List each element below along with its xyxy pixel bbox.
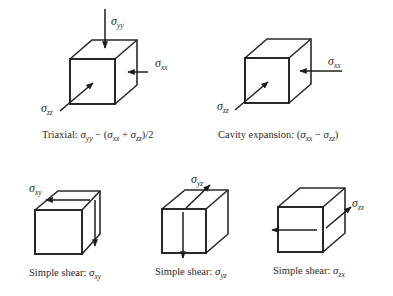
- panel-cavity-expansion: σxx σzz Cavity expansion: (σxx − σzz): [217, 39, 342, 143]
- panel-simple-shear-zx: σzx Simple shear: σzx: [272, 188, 365, 279]
- label-sigma-zz: σzz: [41, 101, 53, 117]
- arrow-sigma-yz-top: [186, 185, 210, 208]
- panel-triaxial: σyy σxx σzz Triaxial: σyy − (σxx + σzz)/…: [41, 9, 168, 143]
- label-sigma-xy: σxy: [29, 181, 42, 197]
- panel-simple-shear-yz: σyz Simple shear: σyz: [155, 172, 228, 280]
- panel-simple-shear-xy: σxy Simple shear: σxy: [29, 181, 102, 281]
- caption-simple-shear-xy: Simple shear: σxy: [29, 266, 102, 281]
- caption-simple-shear-zx: Simple shear: σzx: [273, 264, 345, 279]
- label-sigma-xx: σxx: [328, 54, 341, 70]
- label-sigma-zx: σzx: [352, 196, 365, 212]
- caption-simple-shear-yz: Simple shear: σyz: [155, 265, 227, 280]
- label-sigma-zz: σzz: [217, 99, 229, 115]
- label-sigma-xx: σxx: [155, 56, 168, 72]
- caption-triaxial: Triaxial: σyy − (σxx + σzz)/2: [42, 128, 153, 143]
- label-sigma-yy: σyy: [111, 14, 124, 30]
- arrow-sigma-zx-side: [326, 207, 351, 228]
- label-sigma-yz: σyz: [191, 172, 203, 188]
- stress-diagram: σyy σxx σzz Triaxial: σyy − (σxx + σzz)/…: [0, 0, 393, 296]
- caption-cavity-expansion: Cavity expansion: (σxx − σzz): [218, 128, 339, 143]
